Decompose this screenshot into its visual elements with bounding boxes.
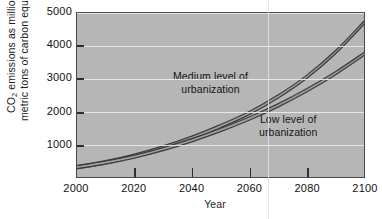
y-tick-label-4000: 4000 [36,38,72,50]
y-axis-title-line-1: CO2 emissions as millions of [5,0,18,113]
y-tick-label-1000: 1000 [36,138,72,150]
y-tick-mark-4000 [77,45,84,47]
y-axis-title-subscript: 2 [10,93,19,97]
y-tick-mark-3000 [77,78,84,80]
x-tick-label-2100: 2100 [337,182,382,194]
annotation-medium-line-1: Medium level of [173,70,248,83]
plot-area: Medium level of urbanization Low level o… [76,12,365,178]
annotation-low-urbanization: Low level of urbanization [259,113,317,139]
annotation-low-line-2: urbanization [259,126,317,139]
y-tick-mark-1000 [77,145,84,147]
annotation-medium-urbanization: Medium level of urbanization [173,70,248,96]
gridline-y-1000 [77,145,364,146]
x-tick-label-2000: 2000 [48,182,104,194]
x-tick-mark-2060 [250,168,252,177]
y-tick-label-5000: 5000 [36,5,72,17]
y-tick-label-2000: 2000 [36,105,72,117]
chart-figure: CO2 emissions as millions of metric tons… [0,0,382,219]
gridline-y-3000 [77,79,364,80]
annotation-low-line-1: Low level of [259,113,317,126]
x-tick-label-2060: 2060 [221,182,277,194]
x-tick-label-2080: 2080 [279,182,335,194]
x-tick-mark-2040 [192,168,194,177]
gridline-y-5000 [77,12,364,13]
x-axis-title: Year [0,198,382,210]
gridline-y-2000 [77,112,364,113]
y-axis-title-rest: emissions as millions of [5,0,17,93]
x-axis-title-text: Year [204,198,226,210]
gridline-y-4000 [77,46,364,47]
y-axis-title-line-2: metric tons of carbon equivalent [18,0,31,121]
x-tick-label-2040: 2040 [164,182,220,194]
y-axis-title: CO2 emissions as millions of metric tons… [0,0,36,125]
y-tick-label-3000: 3000 [36,71,72,83]
y-axis-title-co-text: CO [5,97,17,113]
x-tick-mark-2020 [134,168,136,177]
annotation-medium-line-2: urbanization [173,83,248,96]
x-tick-mark-2080 [307,168,309,177]
x-tick-label-2020: 2020 [106,182,162,194]
y-tick-mark-2000 [77,112,84,114]
